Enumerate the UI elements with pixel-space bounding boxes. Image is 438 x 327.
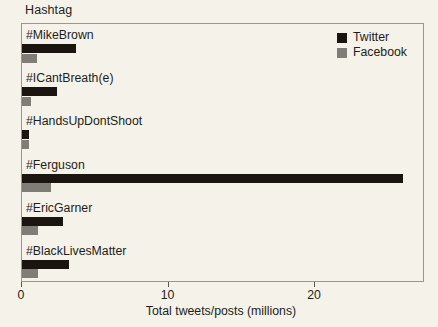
x-axis-title-text: Total tweets/posts (millions) [146,304,296,318]
bar-facebook [22,269,38,278]
legend-swatch-facebook [337,48,347,58]
category-group: #Ferguson [22,154,423,197]
x-axis-tick-label: 20 [307,288,321,302]
x-axis-tick [314,282,315,287]
x-axis-tick [21,282,22,287]
legend-swatch-twitter [337,33,347,43]
category-label: #BlackLivesMatter [26,244,126,258]
bar-twitter [22,130,29,139]
bar-chart: Hashtag #MikeBrown#ICantBreath(e)#HandsU… [0,0,438,327]
category-label: #HandsUpDontShoot [26,114,142,128]
bar-facebook [22,183,51,192]
x-axis-tick-label: 0 [18,288,25,302]
bar-twitter [22,44,76,53]
bar-twitter [22,260,69,269]
plot-area: #MikeBrown#ICantBreath(e)#HandsUpDontSho… [21,23,424,282]
category-label: #MikeBrown [26,28,94,42]
category-group: #HandsUpDontShoot [22,110,423,153]
bar-twitter [22,174,403,183]
bar-facebook [22,54,37,63]
category-group: #EricGarner [22,197,423,240]
plot-inner: #MikeBrown#ICantBreath(e)#HandsUpDontSho… [22,24,423,281]
legend-item-facebook: Facebook [337,45,407,60]
bar-facebook [22,97,31,106]
bar-twitter [22,217,63,226]
bar-facebook [22,140,29,149]
y-axis-caption: Hashtag [25,3,72,17]
x-axis-tick-label: 10 [161,288,175,302]
category-group: #ICantBreath(e) [22,67,423,110]
bar-facebook [22,226,38,235]
legend-label-twitter: Twitter [353,30,389,45]
legend-label-facebook: Facebook [353,45,407,60]
legend: Twitter Facebook [337,30,407,60]
category-label: #Ferguson [26,158,85,172]
x-axis-tick [168,282,169,287]
x-axis-title: Total tweets/posts (millions) [0,304,438,318]
bar-twitter [22,87,57,96]
category-label: #ICantBreath(e) [26,71,114,85]
category-group: #BlackLivesMatter [22,240,423,283]
category-label: #EricGarner [26,201,92,215]
legend-item-twitter: Twitter [337,30,407,45]
